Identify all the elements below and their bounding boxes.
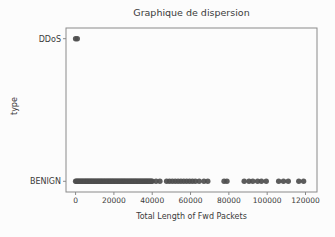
data-point [250, 179, 255, 184]
x-tick-label: 20000 [102, 196, 126, 205]
x-tick-label: 0 [73, 196, 78, 205]
data-point [276, 179, 281, 184]
data-point [157, 179, 162, 184]
axes-frame [66, 28, 317, 192]
x-tick-label: 100000 [253, 196, 282, 205]
x-axis-label: Total Length of Fwd Packets [66, 212, 317, 221]
scatter-figure: Graphique de dispersion type BENIGNDDoS … [0, 0, 335, 237]
data-point [296, 179, 301, 184]
data-point [264, 179, 269, 184]
y-tick-label: BENIGN [0, 177, 61, 186]
data-point [241, 179, 246, 184]
data-point [196, 179, 201, 184]
data-point [205, 179, 210, 184]
data-point [75, 36, 80, 41]
data-point [281, 179, 286, 184]
y-tick-label: DDoS [0, 34, 61, 43]
x-tick-label: 80000 [217, 196, 241, 205]
data-point [301, 179, 306, 184]
x-tick-label: 40000 [140, 196, 164, 205]
data-point [259, 179, 264, 184]
x-tick-label: 60000 [179, 196, 203, 205]
x-tick-label: 120000 [291, 196, 320, 205]
data-point [286, 179, 291, 184]
data-point [224, 179, 229, 184]
